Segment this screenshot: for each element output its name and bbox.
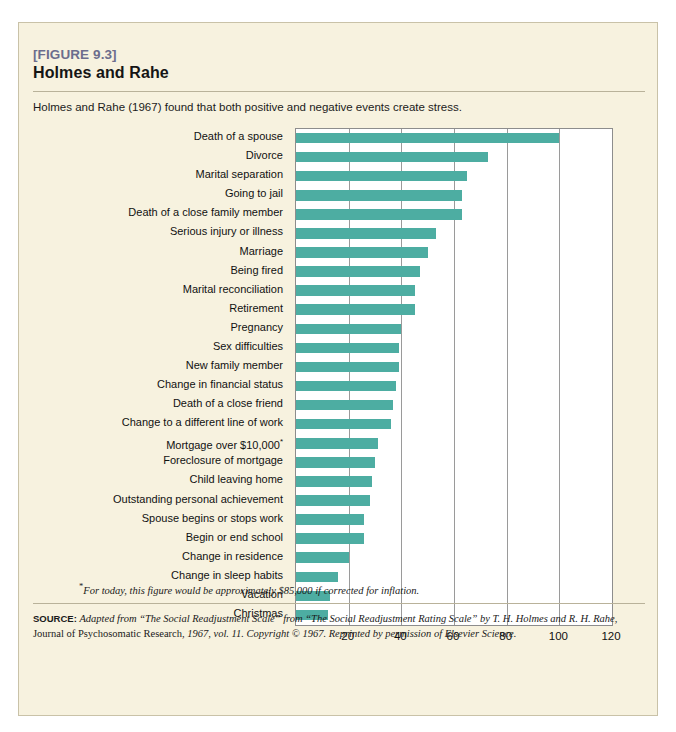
bar bbox=[296, 476, 372, 487]
bar-chart: Death of a spouseDivorceMarital separati… bbox=[47, 128, 613, 638]
bar bbox=[296, 419, 391, 430]
category-label: Outstanding personal achievement bbox=[113, 494, 283, 505]
bar-row bbox=[296, 167, 612, 186]
category-label: Foreclosure of mortgage bbox=[163, 455, 283, 466]
category-label: Spouse begins or stops work bbox=[142, 513, 283, 524]
bar-row bbox=[296, 453, 612, 472]
bar bbox=[296, 533, 364, 544]
bar bbox=[296, 400, 393, 411]
bar-row bbox=[296, 548, 612, 567]
bar bbox=[296, 152, 488, 163]
bar-row bbox=[296, 300, 612, 319]
category-label: Serious injury or illness bbox=[170, 226, 283, 237]
source-text-3: 1967, vol. 11. Copyright © 1967. Reprint… bbox=[187, 628, 516, 639]
footnote: *For today, this figure would be approxi… bbox=[79, 581, 639, 597]
figure-caption: Holmes and Rahe (1967) found that both p… bbox=[33, 100, 645, 116]
bar bbox=[296, 324, 401, 335]
source-key: SOURCE: bbox=[33, 613, 77, 624]
category-label: Death of a close friend bbox=[173, 398, 283, 409]
category-label: Change in residence bbox=[182, 551, 283, 562]
category-label: Change in financial status bbox=[157, 379, 283, 390]
bar-row bbox=[296, 281, 612, 300]
bar bbox=[296, 552, 349, 563]
category-label: Child leaving home bbox=[189, 474, 283, 485]
bar-row bbox=[296, 262, 612, 281]
figure-inner: [FIGURE 9.3] Holmes and Rahe Holmes and … bbox=[33, 33, 645, 707]
category-axis: Death of a spouseDivorceMarital separati… bbox=[47, 128, 291, 626]
category-label: Mortgage over $10,000* bbox=[166, 436, 283, 451]
bar-row bbox=[296, 434, 612, 453]
category-label: Marriage bbox=[240, 246, 283, 257]
bar bbox=[296, 190, 462, 201]
bar bbox=[296, 304, 415, 315]
bar-row bbox=[296, 148, 612, 167]
source-note: SOURCE: Adapted from “The Social Readjus… bbox=[33, 611, 633, 641]
bar bbox=[296, 457, 375, 468]
bar-row bbox=[296, 396, 612, 415]
bar bbox=[296, 266, 420, 277]
footnote-text: For today, this figure would be approxim… bbox=[83, 585, 419, 596]
bar-row bbox=[296, 224, 612, 243]
category-label: Divorce bbox=[246, 150, 283, 161]
source-divider bbox=[33, 603, 645, 604]
figure-card: [FIGURE 9.3] Holmes and Rahe Holmes and … bbox=[18, 22, 658, 716]
title-divider bbox=[33, 91, 645, 92]
bar-row bbox=[296, 205, 612, 224]
category-label: Being fired bbox=[230, 265, 283, 276]
category-label: Marital separation bbox=[196, 169, 283, 180]
bar bbox=[296, 285, 415, 296]
bar-row bbox=[296, 529, 612, 548]
bar bbox=[296, 209, 462, 220]
plot-area bbox=[295, 128, 613, 626]
bar-row bbox=[296, 243, 612, 262]
bar-row bbox=[296, 472, 612, 491]
source-text-2: Journal of Psychosomatic Research, bbox=[33, 628, 185, 639]
category-label: New family member bbox=[186, 360, 283, 371]
bar-row bbox=[296, 377, 612, 396]
bar bbox=[296, 171, 467, 182]
category-label: Change to a different line of work bbox=[122, 417, 283, 428]
source-text-1: Adapted from “The Social Readjustment Sc… bbox=[79, 613, 617, 624]
category-label: Pregnancy bbox=[230, 322, 283, 333]
category-label: Begin or end school bbox=[186, 532, 283, 543]
figure-title: Holmes and Rahe bbox=[33, 64, 645, 82]
footnote-marker-icon: * bbox=[280, 437, 283, 446]
bar bbox=[296, 133, 559, 144]
bar-row bbox=[296, 129, 612, 148]
category-label: Change in sleep habits bbox=[171, 570, 283, 581]
bar bbox=[296, 514, 364, 525]
figure-label: [FIGURE 9.3] bbox=[33, 33, 645, 62]
category-label: Retirement bbox=[229, 303, 283, 314]
bar bbox=[296, 438, 378, 449]
bar bbox=[296, 381, 396, 392]
bar-row bbox=[296, 510, 612, 529]
category-label: Death of a close family member bbox=[128, 207, 283, 218]
bar-row bbox=[296, 415, 612, 434]
bar-row bbox=[296, 338, 612, 357]
bar-row bbox=[296, 319, 612, 338]
bar-row bbox=[296, 357, 612, 376]
bar bbox=[296, 495, 370, 506]
bar-row bbox=[296, 491, 612, 510]
category-label: Going to jail bbox=[225, 188, 283, 199]
category-label: Death of a spouse bbox=[194, 131, 283, 142]
bar bbox=[296, 343, 399, 354]
bar bbox=[296, 362, 399, 373]
bar-row bbox=[296, 186, 612, 205]
category-label: Marital reconciliation bbox=[183, 284, 283, 295]
bar bbox=[296, 228, 436, 239]
bar bbox=[296, 247, 428, 258]
category-label: Sex difficulties bbox=[213, 341, 283, 352]
